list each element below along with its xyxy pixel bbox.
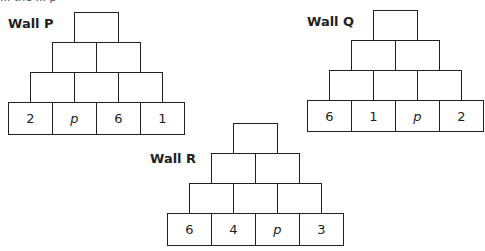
wall-r-brick-r3-2	[255, 153, 300, 184]
wall-r-brick-r2-1	[189, 183, 234, 214]
wall-p-brick-r2-2	[74, 72, 119, 103]
wall-q-brick-top	[373, 10, 418, 41]
wall-q-brick-bottom-2: 1	[351, 100, 396, 132]
wall-q-brick-r3-2	[395, 40, 440, 71]
wall-p-brick-r2-3	[118, 72, 163, 103]
wall-p-brick-r2-1	[30, 72, 75, 103]
wall-r-brick-r3-1	[211, 153, 256, 184]
wall-p-brick-bottom-4: 1	[140, 102, 185, 135]
wall-r-brick-bottom-4: 3	[299, 213, 344, 246]
wall-q-brick-bottom-1: 6	[307, 100, 352, 132]
wall-p-brick-r3-1	[52, 42, 97, 73]
wall-r-brick-r2-3	[277, 183, 322, 214]
wall-q-label: Wall Q	[307, 14, 354, 29]
wall-q-brick-r3-1	[351, 40, 396, 71]
wall-p-label: Wall P	[8, 16, 54, 31]
wall-q-brick-r2-3	[417, 70, 462, 101]
wall-q-brick-r2-1	[329, 70, 374, 101]
wall-r-brick-bottom-1: 6	[167, 213, 212, 246]
wall-p-brick-bottom-3: 6	[96, 102, 141, 135]
wall-p-brick-top	[74, 12, 119, 43]
wall-p-brick-r3-2	[96, 42, 141, 73]
wall-r-brick-top	[233, 123, 278, 154]
wall-q-brick-r2-2	[373, 70, 418, 101]
cropped-instruction-text: ... the ... p	[0, 0, 57, 4]
wall-r-label: Wall R	[150, 151, 196, 166]
wall-r-brick-bottom-2: 4	[211, 213, 256, 246]
wall-r-brick-bottom-3: p	[255, 213, 300, 246]
wall-p-brick-bottom-1: 2	[8, 102, 53, 135]
wall-p-brick-bottom-2: p	[52, 102, 97, 135]
wall-q-brick-bottom-4: 2	[439, 100, 484, 132]
wall-r-brick-r2-2	[233, 183, 278, 214]
wall-q-brick-bottom-3: p	[395, 100, 440, 132]
